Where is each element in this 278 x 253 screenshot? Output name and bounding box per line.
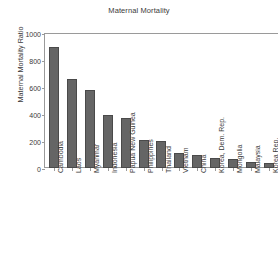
x-tick-label: Laos [75, 158, 82, 173]
x-tick-mark [233, 168, 234, 171]
x-tick-mark [54, 168, 55, 171]
x-tick-mark [269, 168, 270, 171]
bars-layer [45, 33, 278, 168]
x-tick-mark [108, 168, 109, 171]
bar[interactable] [67, 79, 77, 168]
bar-slot [188, 33, 206, 168]
x-tick-label: Papua New Guinea [129, 112, 136, 173]
maternal-mortality-bar-chart: Maternal Mortality Maternal Mortality Ra… [0, 0, 278, 253]
y-axis-label: Maternal Mortality Ratio [16, 0, 25, 130]
x-tick-mark [72, 168, 73, 171]
x-tick-label: Mongolia [236, 145, 243, 173]
x-tick-label: Cambodia [57, 141, 64, 173]
x-tick-label: Philippines [147, 139, 154, 173]
x-tick-label: Korea, Dem. Rep. [218, 117, 225, 173]
x-tick-label: Malaysia [254, 145, 261, 173]
x-tick-label: Indonesia [111, 143, 118, 173]
x-tick-mark [90, 168, 91, 171]
x-tick-label: Vietnam [182, 147, 189, 173]
x-tick-mark [251, 168, 252, 171]
x-tick-label: Korea Rep. [272, 138, 278, 173]
chart-title: Maternal Mortality [0, 6, 278, 15]
x-tick-mark [215, 168, 216, 171]
x-tick-label: Thailand [165, 146, 172, 173]
x-tick-mark [179, 168, 180, 171]
y-tick-mark [42, 169, 45, 170]
x-tick-mark [162, 168, 163, 171]
x-tick-label: Myanmar [93, 144, 100, 173]
x-tick-mark [197, 168, 198, 171]
x-tick-mark [144, 168, 145, 171]
x-tick-mark [126, 168, 127, 171]
x-tick-label: China [200, 155, 207, 173]
bar-slot [63, 33, 81, 168]
